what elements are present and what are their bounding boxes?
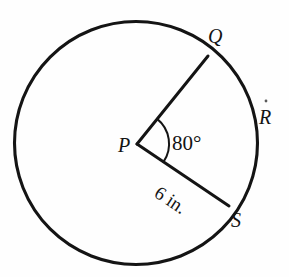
diagram-canvas: P Q R S 80° 6 in.: [0, 0, 289, 277]
label-center-p: P: [117, 134, 130, 156]
circle-sector-diagram: P Q R S 80° 6 in.: [0, 0, 289, 277]
label-angle-measure: 80°: [172, 131, 201, 155]
label-arc-r: R: [258, 106, 271, 128]
central-angle-arc: [157, 119, 169, 162]
arc-r-tick-dot: [265, 100, 268, 103]
label-radius-measure: 6 in.: [151, 182, 191, 218]
label-point-s: S: [231, 209, 241, 231]
label-point-q: Q: [208, 25, 223, 47]
